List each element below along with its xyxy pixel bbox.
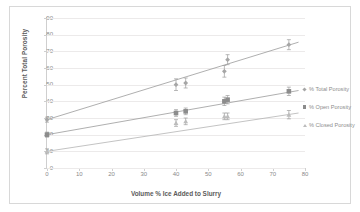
data-series-layer <box>47 18 305 168</box>
chart-figure: Percent Total Porosity Volume % Ice Adde… <box>0 0 360 212</box>
data-point-square <box>287 89 292 94</box>
x-tick-label: 60 <box>226 171 256 177</box>
x-tick-label: 0 <box>32 171 62 177</box>
trendline <box>47 42 299 120</box>
data-point-square <box>183 109 188 114</box>
data-point-triangle <box>225 114 230 118</box>
legend-label: % Open Porosity <box>309 104 351 110</box>
x-tick-label: 40 <box>161 171 191 177</box>
x-tick-label: 50 <box>193 171 223 177</box>
data-point-diamond <box>225 57 230 62</box>
x-tick-label: 10 <box>64 171 94 177</box>
data-point-triangle <box>174 121 179 125</box>
legend-item[interactable]: % Total Porosity <box>300 80 360 98</box>
trendline <box>47 91 299 135</box>
data-point-square <box>45 132 50 137</box>
x-tick-label: 80 <box>290 171 320 177</box>
legend-item[interactable]: % Closed Porosity <box>300 116 360 134</box>
x-tick-label: 20 <box>97 171 127 177</box>
x-tick-label: 30 <box>129 171 159 177</box>
legend-label: % Total Porosity <box>309 86 349 92</box>
data-point-triangle <box>183 119 188 123</box>
data-point-diamond <box>174 82 179 87</box>
legend-label: % Closed Porosity <box>309 122 355 128</box>
x-axis-label: Volume % Ice Added to Slurry <box>47 190 305 197</box>
gridline-y <box>47 168 305 169</box>
triangle-marker-icon <box>300 124 309 127</box>
square-marker-icon <box>300 105 309 108</box>
legend-item[interactable]: % Open Porosity <box>300 98 360 116</box>
series-group <box>45 40 292 123</box>
diamond-marker-icon <box>300 88 309 91</box>
trendline <box>47 113 299 151</box>
data-point-diamond <box>222 69 227 74</box>
data-point-diamond <box>286 42 291 47</box>
chart-legend: % Total Porosity% Open Porosity% Closed … <box>300 80 360 134</box>
data-point-square <box>225 97 230 102</box>
x-tick-label: 70 <box>258 171 288 177</box>
series-group <box>45 87 291 137</box>
data-point-diamond <box>183 81 188 86</box>
plot-area <box>47 18 305 168</box>
series-group <box>45 111 292 154</box>
data-point-square <box>174 111 179 116</box>
x-tick-mark <box>305 168 306 171</box>
